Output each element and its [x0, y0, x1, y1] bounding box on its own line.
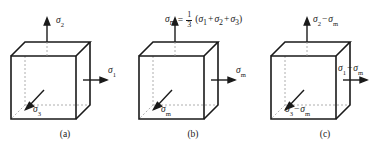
caption-c: (c)	[260, 129, 390, 139]
fraction-numerator: 1	[186, 11, 192, 20]
mean-stress-formula: σm = 1 3 (σ1+σ2+σ3)	[165, 11, 242, 29]
label-sigma2-minus-sigmam: σ2−σm	[313, 15, 338, 25]
label-sigma3-minus-sigmam: σ3−σm	[285, 105, 310, 115]
cube-solid-edges	[11, 42, 90, 119]
cube-hidden-edges	[11, 56, 90, 119]
panel-c: σ2−σm σ1−σm σ3−σm (c)	[260, 0, 390, 151]
label-sigma-m-right: σm	[236, 66, 246, 76]
cube-solid-edges	[139, 42, 218, 119]
panel-a: σ2 σ1 σ3 (a)	[0, 0, 130, 151]
label-sigma3: σ3	[33, 105, 41, 115]
label-sigma-m-bottom: σm	[161, 105, 171, 115]
label-sigma1: σ1	[108, 66, 116, 76]
caption-a: (a)	[0, 129, 130, 139]
cube-solid-edges	[271, 42, 350, 119]
formula-equals: =	[178, 15, 183, 25]
cube-hidden-edges	[139, 56, 218, 119]
formula-rhs: (σ1+σ2+σ3)	[195, 14, 242, 27]
figure-root: σ2 σ1 σ3 (a)	[0, 0, 391, 151]
formula-lhs: σm	[165, 14, 176, 27]
label-sigma2: σ2	[56, 16, 64, 26]
formula-fraction: 1 3	[186, 11, 192, 29]
stress-arrows	[154, 18, 236, 110]
label-sigma1-minus-sigmam: σ1−σm	[338, 64, 363, 74]
fraction-denominator: 3	[186, 21, 192, 30]
stress-arrows	[26, 18, 108, 110]
caption-b: (b)	[128, 129, 258, 139]
